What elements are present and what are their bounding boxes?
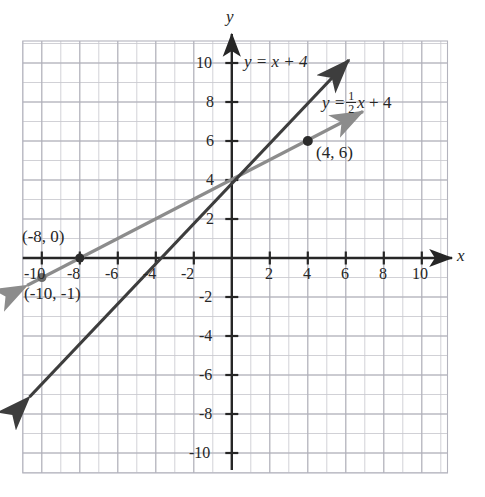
y-tick-label--6: -6 <box>199 367 212 383</box>
y-tick-label-2: 2 <box>206 211 214 227</box>
point-marker-4-6 <box>303 136 313 146</box>
graph-figure: -10 -8 -6 -4 -2 2 4 6 8 10 10 8 6 4 2 -2… <box>0 0 485 497</box>
x-tick-label-4: 4 <box>303 266 311 282</box>
equation-line2-rest: + 4 <box>369 93 391 112</box>
x-tick-label-6: 6 <box>341 266 349 282</box>
x-tick-label--6: -6 <box>105 266 118 282</box>
x-tick-label-10: 10 <box>412 266 428 282</box>
line-x-plus-4 <box>30 60 350 397</box>
x-tick-label--4: -4 <box>143 266 156 282</box>
fraction-denominator: 2 <box>346 102 356 115</box>
x-tick-label--2: -2 <box>181 266 194 282</box>
point-label-4-6: (4, 6) <box>316 144 353 161</box>
y-tick-label-10: 10 <box>196 55 212 71</box>
equation-line2-lead: y = <box>322 93 345 112</box>
y-tick-label--8: -8 <box>199 406 212 422</box>
y-tick-label--2: -2 <box>199 289 212 305</box>
x-tick-label--10: -10 <box>24 266 45 282</box>
y-tick-label-6: 6 <box>206 133 214 149</box>
x-tick-label-2: 2 <box>265 266 273 282</box>
point-label-neg10-neg1: (-10, -1) <box>24 285 81 302</box>
x-axis-label: x <box>457 247 465 264</box>
equation-line2-variable: x <box>357 93 365 112</box>
equation-label-line1: y = x + 4 <box>244 53 308 70</box>
y-axis-label: y <box>226 8 234 25</box>
y-tick-label-4: 4 <box>206 172 214 188</box>
y-tick-label--4: -4 <box>199 328 212 344</box>
y-tick-label--10: -10 <box>189 445 210 461</box>
equation-label-line2: y =12x + 4 <box>322 91 391 116</box>
point-marker-neg8-0 <box>75 253 84 262</box>
fraction-one-half: 12 <box>346 90 356 115</box>
y-tick-label-8: 8 <box>206 94 214 110</box>
fraction-numerator: 1 <box>346 90 356 102</box>
point-label-neg8-0: (-8, 0) <box>22 228 64 245</box>
x-tick-label--8: -8 <box>67 266 80 282</box>
graph-canvas <box>0 0 485 497</box>
x-tick-label-8: 8 <box>379 266 387 282</box>
